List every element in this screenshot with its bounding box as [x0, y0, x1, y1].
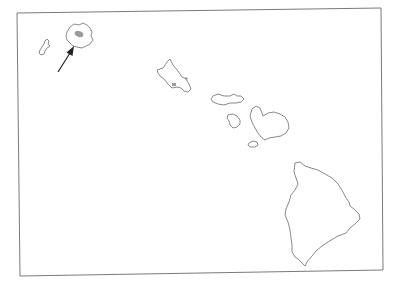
hawaii-map [0, 0, 397, 292]
island-hawaii [285, 162, 360, 266]
arrow-annotation [58, 46, 74, 72]
island-maui [250, 106, 289, 140]
island-molokai [211, 94, 244, 105]
island-niihau [39, 39, 50, 55]
island-kahoolawe [248, 141, 258, 147]
island-oahu [157, 59, 191, 92]
oahu-harbor-mark [172, 83, 176, 86]
island-lanai [227, 114, 240, 128]
arrow-head-icon [67, 46, 75, 56]
